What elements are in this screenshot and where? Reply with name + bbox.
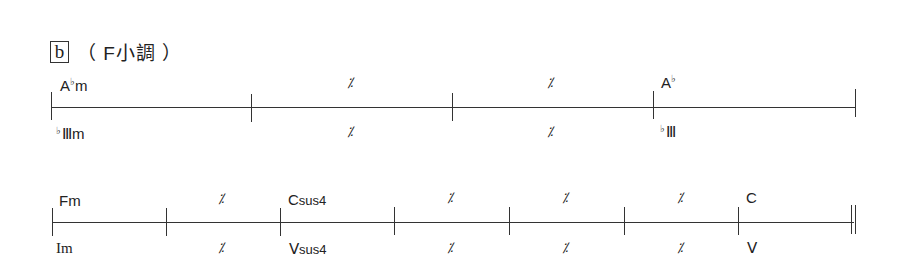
section-label: b [50, 41, 69, 63]
barline [509, 207, 510, 235]
chord-symbol: Fm [59, 192, 81, 209]
chord-symbol: A♭m [60, 76, 88, 94]
repeat-sign: ⁒ [347, 124, 353, 139]
repeat-sign: ⁒ [447, 240, 453, 255]
repeat-sign: ⁒ [547, 75, 553, 90]
barline [52, 208, 53, 236]
barline [166, 208, 167, 236]
roman-numeral: ♭Ⅲm [56, 125, 85, 143]
repeat-sign: ⁒ [218, 191, 224, 206]
section-heading: b （ F小調 ） [50, 38, 182, 65]
barline [452, 93, 453, 121]
repeat-sign: ⁒ [562, 240, 568, 255]
barline [653, 91, 654, 119]
repeat-sign: ⁒ [447, 190, 453, 205]
double-barline [851, 205, 852, 234]
end-barline [855, 89, 856, 117]
chord-symbol: Csus4 [288, 191, 326, 208]
key-label: （ F小調 ） [77, 38, 182, 65]
barline [624, 207, 625, 235]
repeat-sign: ⁒ [562, 190, 568, 205]
double-barline [855, 205, 856, 234]
barline [738, 207, 739, 235]
barline [51, 92, 52, 120]
roman-numeral: ♭Ⅲ [660, 123, 676, 141]
roman-numeral: Ⅴ [747, 239, 757, 257]
staff-line [52, 222, 854, 223]
barline [280, 208, 281, 236]
roman-numeral: Ⅴsus4 [289, 240, 326, 258]
repeat-sign: ⁒ [218, 240, 224, 255]
barline [394, 207, 395, 235]
roman-numeral: Im [56, 240, 73, 257]
repeat-sign: ⁒ [677, 190, 683, 205]
chord-symbol: A♭ [661, 73, 676, 91]
staff-line [51, 107, 856, 108]
repeat-sign: ⁒ [347, 75, 353, 90]
repeat-sign: ⁒ [547, 124, 553, 139]
repeat-sign: ⁒ [677, 240, 683, 255]
chord-symbol: C [746, 189, 757, 206]
barline [251, 94, 252, 122]
